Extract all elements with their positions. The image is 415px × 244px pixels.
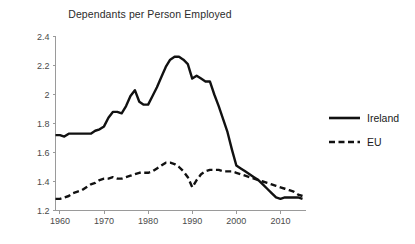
x-tick-label: 1970 (94, 216, 114, 226)
x-tick-label: 1980 (138, 216, 158, 226)
y-tick-label: 2.2 (37, 61, 50, 71)
x-tick-label: 2000 (226, 216, 246, 226)
y-tick-label: 1.8 (37, 119, 50, 129)
x-tick-label: 1960 (50, 216, 70, 226)
legend-label-eu: EU (367, 136, 382, 148)
chart-figure: Dependants per Person Employed 1.21.41.6… (0, 0, 415, 244)
y-tick-label: 2 (44, 90, 49, 100)
y-tick-label: 1.2 (37, 206, 50, 216)
series-line-ireland (56, 57, 303, 199)
legend-label-ireland: Ireland (367, 112, 399, 124)
line-chart-plot: 1.21.41.61.822.22.4 19601970198019902000… (0, 0, 415, 244)
y-tick-label: 1.4 (37, 177, 50, 187)
y-tick-label: 1.6 (37, 148, 50, 158)
series-line-eu (56, 163, 303, 199)
chart-legend: IrelandEU (329, 112, 399, 148)
x-axis-ticks: 196019701980199020002010 (50, 211, 291, 226)
x-tick-label: 2010 (270, 216, 290, 226)
y-tick-label: 2.4 (37, 32, 50, 42)
y-axis-ticks: 1.21.41.61.822.22.4 (37, 32, 56, 216)
x-tick-label: 1990 (182, 216, 202, 226)
data-series-group (56, 57, 303, 199)
